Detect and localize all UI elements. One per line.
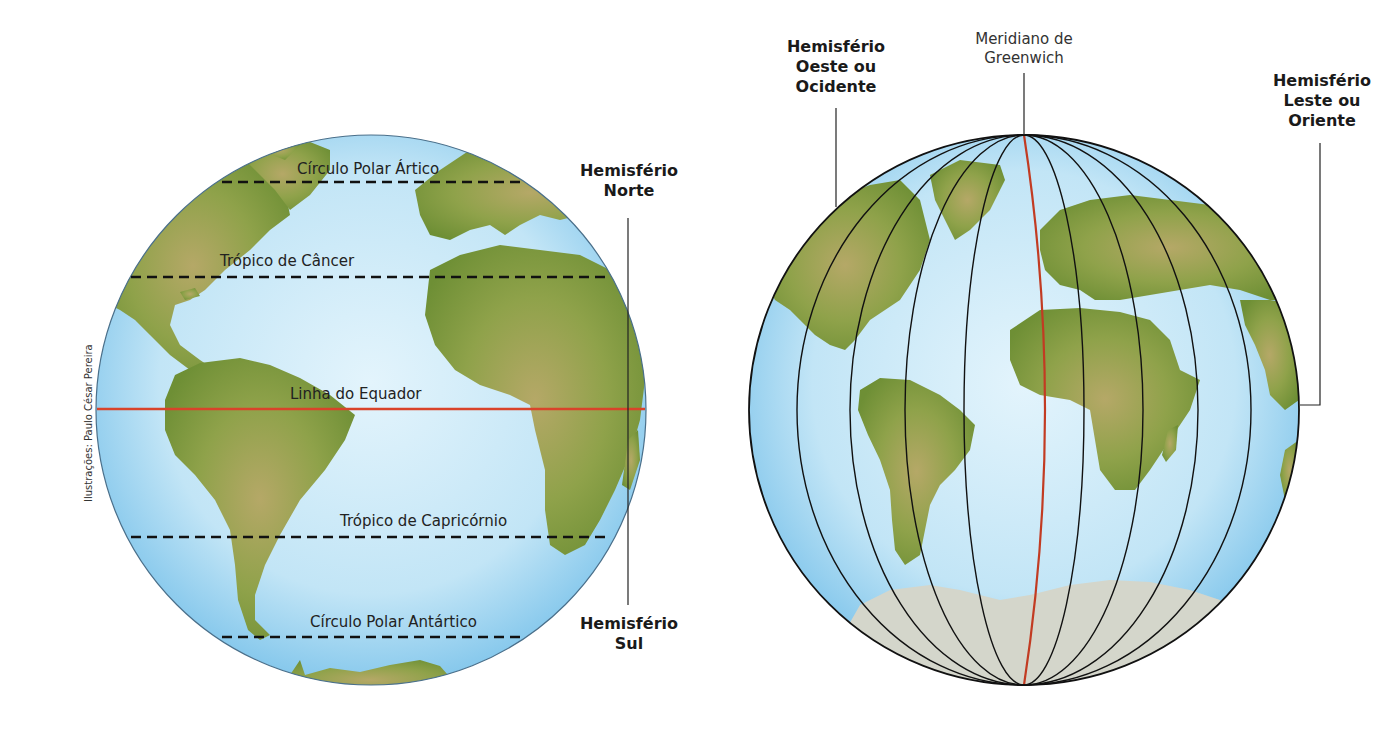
arctic-circle-label: Círculo Polar Ártico	[297, 160, 439, 178]
greenwich-label: Meridiano de Greenwich	[954, 30, 1094, 68]
hemisphere-west-line2: Oeste ou	[780, 57, 892, 77]
tropic-capricorn-label: Trópico de Capricórnio	[340, 512, 507, 530]
antarctic-circle-label: Círculo Polar Antártico	[310, 613, 477, 631]
diagram-canvas	[0, 0, 1383, 729]
hemisphere-north-line1: Hemisfério	[573, 161, 685, 181]
hemisphere-west-line1: Hemisfério	[780, 37, 892, 57]
hemisphere-east-line3: Oriente	[1266, 111, 1378, 131]
hemisphere-south-line1: Hemisfério	[573, 614, 685, 634]
hemisphere-south-label: Hemisfério Sul	[573, 614, 685, 654]
greenwich-line1: Meridiano de	[954, 30, 1094, 49]
greenwich-line2: Greenwich	[954, 49, 1094, 68]
globe-meridians	[749, 73, 1320, 700]
tropic-cancer-label: Trópico de Câncer	[220, 252, 354, 270]
equator-label: Linha do Equador	[290, 385, 422, 403]
europe	[1040, 195, 1299, 300]
hemisphere-east-line2: Leste ou	[1266, 91, 1378, 111]
hemisphere-east-label: Hemisfério Leste ou Oriente	[1266, 71, 1378, 131]
hemisphere-south-line2: Sul	[573, 634, 685, 654]
hemisphere-west-line3: Ocidente	[780, 77, 892, 97]
hemisphere-west-label: Hemisfério Oeste ou Ocidente	[780, 37, 892, 97]
hemisphere-north-line2: Norte	[573, 181, 685, 201]
illustration-credit: Ilustrações: Paulo César Pereira	[83, 344, 94, 502]
hemisphere-north-label: Hemisfério Norte	[573, 161, 685, 201]
hemisphere-east-line1: Hemisfério	[1266, 71, 1378, 91]
east-leader-line	[1300, 143, 1320, 405]
